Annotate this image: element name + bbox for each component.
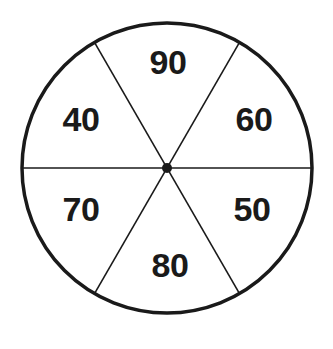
sector-label-upper-right: 60 bbox=[236, 100, 273, 138]
sector-label-bottom: 80 bbox=[152, 246, 189, 284]
spinner-figure: 90 60 50 80 70 40 bbox=[0, 0, 333, 349]
spinner-diagram: 90 60 50 80 70 40 bbox=[0, 0, 333, 349]
spinner-center-dot bbox=[162, 163, 172, 173]
sector-label-upper-left: 40 bbox=[63, 100, 100, 138]
sector-label-lower-right: 50 bbox=[234, 190, 271, 228]
sector-label-lower-left: 70 bbox=[63, 190, 100, 228]
sector-label-top: 90 bbox=[150, 43, 187, 81]
